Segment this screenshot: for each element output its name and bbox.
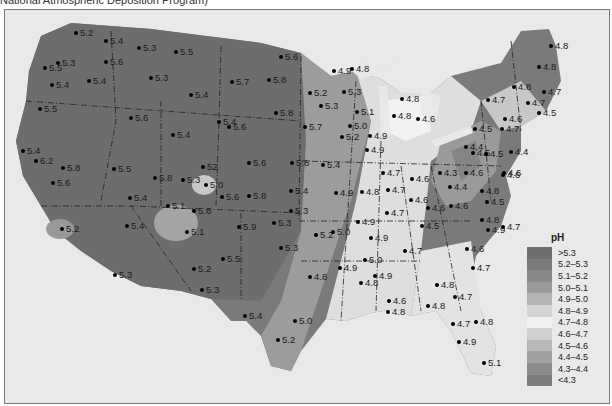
legend-label: 5.0–5.1 xyxy=(558,283,588,293)
station-dot-icon xyxy=(50,83,54,87)
station-marker: 5.1 xyxy=(482,358,501,368)
station-dot-icon xyxy=(537,65,541,69)
legend-swatch xyxy=(527,259,552,271)
station-dot-icon xyxy=(471,266,475,270)
station-dot-icon xyxy=(400,97,404,101)
station-dot-icon xyxy=(549,44,553,48)
station-marker: 5.4 xyxy=(128,193,147,203)
station-dot-icon xyxy=(51,181,55,185)
legend-item: 4.6–4.7 xyxy=(517,328,607,340)
station-dot-icon xyxy=(392,114,396,118)
station-marker: 4.8 xyxy=(537,62,556,72)
station-marker: 5.3 xyxy=(149,73,168,83)
station-ph-value: 5.3 xyxy=(187,174,200,185)
station-dot-icon xyxy=(113,273,117,277)
station-ph-value: 5.4 xyxy=(134,192,147,203)
station-marker: 4.6 xyxy=(465,244,484,254)
station-dot-icon xyxy=(104,60,108,64)
station-dot-icon xyxy=(338,266,342,270)
station-dot-icon xyxy=(448,185,452,189)
station-marker: 5.1 xyxy=(185,227,204,237)
station-marker: 4.7 xyxy=(500,124,519,134)
station-ph-value: 5.7 xyxy=(309,121,322,132)
station-dot-icon xyxy=(272,221,276,225)
station-dot-icon xyxy=(457,340,461,344)
station-dot-icon xyxy=(87,79,91,83)
station-ph-value: 4.8 xyxy=(486,185,499,196)
map-frame: 5.25.45.35.55.55.35.65.45.45.35.45.65.55… xyxy=(4,9,610,404)
station-ph-value: 5.8 xyxy=(67,162,80,173)
station-dot-icon xyxy=(500,127,504,131)
station-marker: 5.4 xyxy=(243,311,262,321)
station-marker: 5.4 xyxy=(87,76,106,86)
station-ph-value: 4.9 xyxy=(340,187,353,198)
station-ph-value: 4.4 xyxy=(515,146,528,157)
station-marker: 5.5 xyxy=(112,164,131,174)
station-marker: 4.5 xyxy=(484,149,503,159)
station-marker: 5.8 xyxy=(274,108,293,118)
station-ph-value: 4.5 xyxy=(543,107,556,118)
legend-swatch xyxy=(527,282,552,294)
station-marker: 4.4 xyxy=(464,142,483,152)
station-marker: 5.4 xyxy=(104,36,123,46)
station-dot-icon xyxy=(34,159,38,163)
station-ph-value: 4.7 xyxy=(477,262,490,273)
station-ph-value: 4.8 xyxy=(366,186,379,197)
station-dot-icon xyxy=(217,120,221,124)
station-ph-value: 4.7 xyxy=(459,291,472,302)
station-marker: 4.9 xyxy=(365,145,384,155)
station-marker: 4.8 xyxy=(350,64,369,74)
station-ph-value: 5.6 xyxy=(135,112,148,123)
station-marker: 5.6 xyxy=(220,192,239,202)
station-dot-icon xyxy=(181,178,185,182)
station-marker: 4.5 xyxy=(473,124,492,134)
station-dot-icon xyxy=(308,91,312,95)
station-marker: 4.8 xyxy=(360,187,379,197)
station-marker: 4.7 xyxy=(386,185,405,195)
station-ph-value: 4.9 xyxy=(344,262,357,273)
legend-title: pH xyxy=(551,232,607,243)
station-ph-value: 5.3 xyxy=(295,205,308,216)
station-marker: 5.6 xyxy=(247,158,266,168)
station-ph-value: 4.3 xyxy=(444,167,457,178)
station-dot-icon xyxy=(314,233,318,237)
station-ph-value: 5.3 xyxy=(119,269,132,280)
station-dot-icon xyxy=(289,209,293,213)
station-marker: 5.5 xyxy=(174,47,193,57)
station-ph-value: 4.6 xyxy=(393,295,406,306)
station-ph-value: 5.3 xyxy=(143,42,156,53)
station-marker: 4.6 xyxy=(416,114,435,124)
station-ph-value: 5.6 xyxy=(226,191,239,202)
station-marker: 5.4 xyxy=(321,160,340,170)
station-ph-value: 4.6 xyxy=(455,200,468,211)
station-dot-icon xyxy=(74,31,78,35)
station-ph-value: 4.9 xyxy=(362,216,375,227)
station-dot-icon xyxy=(185,230,189,234)
station-marker: 4.7 xyxy=(486,95,505,105)
station-ph-value: 52 xyxy=(207,161,218,172)
station-marker: 4.9 xyxy=(369,233,388,243)
legend-label: 5.2–5.3 xyxy=(558,259,588,269)
station-marker: 4.8 xyxy=(512,82,531,92)
station-dot-icon xyxy=(386,188,390,192)
station-dot-icon xyxy=(386,310,390,314)
station-dot-icon xyxy=(290,161,294,165)
station-dot-icon xyxy=(38,107,42,111)
station-marker: 4.8 xyxy=(400,94,419,104)
station-ph-value: 4.7 xyxy=(457,318,470,329)
station-dot-icon xyxy=(279,246,283,250)
station-dot-icon xyxy=(171,133,175,137)
station-dot-icon xyxy=(409,198,413,202)
station-ph-value: 5.3 xyxy=(278,217,291,228)
station-marker: 4.8 xyxy=(435,280,454,290)
station-dot-icon xyxy=(56,61,60,65)
station-ph-value: 5.0 xyxy=(210,179,223,190)
station-ph-value: 5.3 xyxy=(325,100,338,111)
station-dot-icon xyxy=(319,104,323,108)
station-dot-icon xyxy=(340,135,344,139)
map-caption: National Atmospheric Deposition Program) xyxy=(0,0,208,6)
station-dot-icon xyxy=(420,224,424,228)
station-dot-icon xyxy=(279,55,283,59)
station-ph-value: 5.3 xyxy=(155,72,168,83)
station-ph-value: 4.7 xyxy=(391,207,404,218)
